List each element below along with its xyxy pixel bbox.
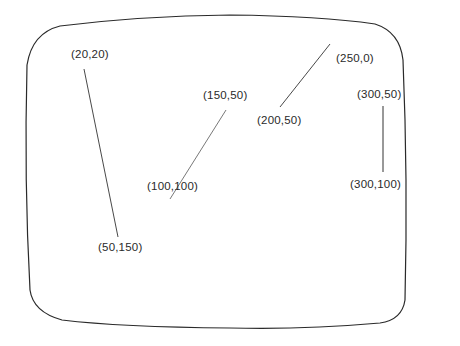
label-300-100: (300,100) bbox=[350, 178, 401, 190]
label-150-50: (150,50) bbox=[203, 89, 247, 101]
label-50-150: (50,150) bbox=[98, 241, 142, 253]
label-200-50: (200,50) bbox=[257, 114, 301, 126]
segment-3-line bbox=[280, 44, 330, 107]
screen-diagram bbox=[0, 0, 460, 346]
label-100-100: (100,100) bbox=[147, 180, 198, 192]
label-20-20: (20,20) bbox=[71, 48, 109, 60]
segment-1-line bbox=[84, 69, 118, 237]
label-300-50: (300,50) bbox=[357, 88, 401, 100]
label-250-0: (250,0) bbox=[336, 52, 374, 64]
